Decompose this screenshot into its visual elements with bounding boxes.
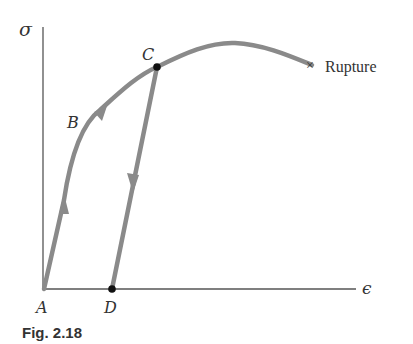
point-c-label: C (142, 45, 154, 64)
rupture-marker-icon: × (306, 58, 314, 73)
arrow-up-icon (59, 194, 69, 214)
point-c-marker (153, 63, 161, 71)
point-a-label: A (34, 298, 48, 317)
point-b-label: B (66, 113, 79, 132)
sigma-axis-label: σ (19, 18, 33, 40)
point-d-marker (108, 285, 116, 293)
point-d-label: D (103, 298, 117, 317)
loading-curve (44, 43, 312, 289)
stress-strain-diagram: × Rupture σ ϵ A B C D Fig. 2.18 (0, 0, 413, 344)
rupture-label: Rupture (325, 58, 377, 76)
arrow-down-icon (127, 173, 139, 193)
epsilon-axis-label: ϵ (362, 278, 372, 298)
figure-caption: Fig. 2.18 (22, 324, 82, 341)
